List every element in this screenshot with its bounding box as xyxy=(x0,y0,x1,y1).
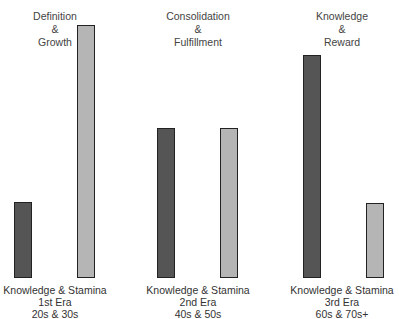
era-3-stamina-bar xyxy=(366,203,384,278)
era-1-label: Knowledge & Stamina 1st Era 20s & 30s xyxy=(0,284,120,319)
era-3-label: Knowledge & Stamina 3rd Era 60s & 70s+ xyxy=(277,284,399,319)
era-2-label: Knowledge & Stamina 2nd Era 40s & 50s xyxy=(133,284,263,319)
era-2-knowledge-bar xyxy=(157,128,175,278)
era-1-stamina-bar xyxy=(77,25,95,278)
era-2-stamina-bar xyxy=(220,128,238,278)
era-3-title: Knowledge & Reward xyxy=(277,10,399,49)
era-1-knowledge-bar xyxy=(14,202,32,278)
era-1-title: Definition & Growth xyxy=(0,10,120,49)
era-2-title: Consolidation & Fulfillment xyxy=(133,10,263,49)
era-3-knowledge-bar xyxy=(303,55,321,278)
